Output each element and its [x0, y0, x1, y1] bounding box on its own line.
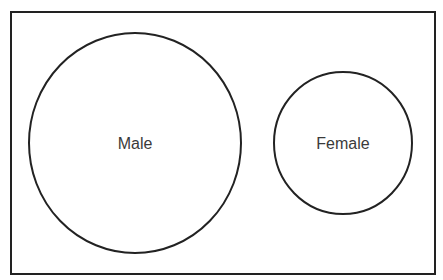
venn-diagram: Male Female: [0, 0, 443, 280]
diagram-frame: [11, 12, 435, 274]
male-set-label: Male: [118, 135, 153, 152]
female-set-label: Female: [316, 135, 369, 152]
